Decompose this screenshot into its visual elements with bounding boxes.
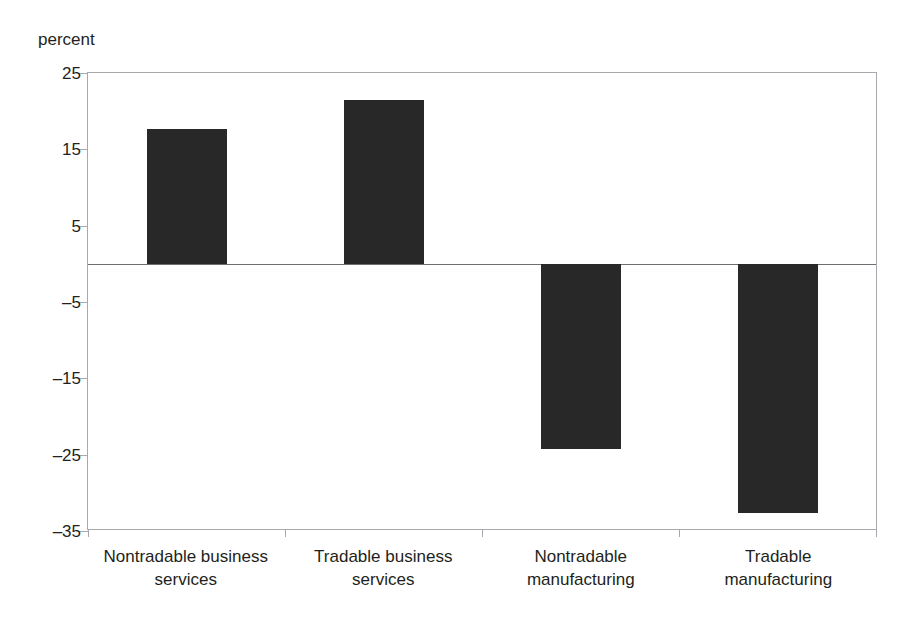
x-axis-category-label: Tradable businessservices (285, 545, 483, 605)
x-axis-category-label: Nontradable businessservices (87, 545, 285, 605)
plot-area: 25155–5–15–25–35 (87, 72, 877, 530)
bar-slot (679, 73, 876, 529)
bar[interactable] (147, 129, 227, 263)
y-axis-tick-label: –35 (53, 523, 81, 540)
x-axis-category-label-line: Nontradable business (91, 545, 281, 568)
x-axis-category-labels: Nontradable businessservicesTradable bus… (87, 545, 877, 605)
x-axis-category-label: Tradablemanufacturing (680, 545, 878, 605)
bar[interactable] (738, 264, 818, 513)
x-axis-category-label-line: manufacturing (486, 568, 676, 591)
x-axis-tick-mark (482, 529, 483, 537)
y-axis-tick-label: 15 (62, 141, 81, 158)
bar-slot (285, 73, 482, 529)
bar-slot (88, 73, 285, 529)
x-axis-tick-mark (876, 529, 877, 537)
x-axis-category-label: Nontradablemanufacturing (482, 545, 680, 605)
y-axis-tick-label: 5 (72, 217, 81, 234)
y-axis-tick-label: –25 (53, 446, 81, 463)
bar[interactable] (541, 264, 621, 449)
y-axis-tick-label: –15 (53, 370, 81, 387)
x-axis-tick-mark (285, 529, 286, 537)
x-axis-category-label-line: Tradable business (289, 545, 479, 568)
bar[interactable] (344, 100, 424, 264)
x-axis-category-label-line: manufacturing (684, 568, 874, 591)
x-axis-tick-mark (88, 529, 89, 537)
x-axis-tick-mark (679, 529, 680, 537)
y-axis-unit-label: percent (38, 29, 95, 50)
y-axis-tick-label: 25 (62, 65, 81, 82)
bar-chart-figure: percent 25155–5–15–25–35 Nontradable bus… (0, 0, 912, 629)
x-axis-category-label-line: services (91, 568, 281, 591)
bar-slot (482, 73, 679, 529)
y-axis-tick-label: –5 (62, 294, 81, 311)
x-axis-category-label-line: Nontradable (486, 545, 676, 568)
x-axis-category-label-line: Tradable (684, 545, 874, 568)
x-axis-category-label-line: services (289, 568, 479, 591)
